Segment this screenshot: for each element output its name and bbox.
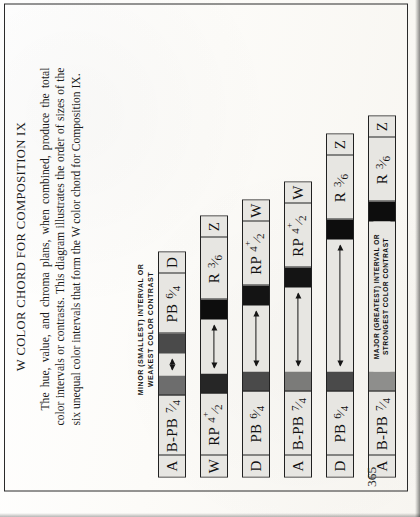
bar-start-notation: PB 6/4 — [243, 391, 269, 455]
bar-start-swatch — [327, 371, 353, 391]
interval-bar: AB-PB 7/4RP 4+/2W — [284, 181, 312, 477]
minor-annotation-line-1: MINOR (SMALLEST) INTERVAL OR — [136, 249, 146, 409]
page-title: W COLOR CHORD FOR COMPOSITION IX — [14, 21, 29, 471]
bar-end-letter: Z — [369, 116, 395, 137]
interval-bar: DPB 6/4RP 4+/2W — [242, 199, 270, 477]
double-arrow-icon — [171, 359, 172, 369]
bar-start-swatch — [369, 371, 395, 391]
bar-start-letter: W — [201, 455, 227, 476]
major-interval-annotation: MAJOR (GREATEST) INTERVAL ORSTRONGEST CO… — [373, 221, 390, 371]
bar-end-letter: W — [285, 182, 311, 203]
bar-end-letter: W — [243, 200, 269, 221]
bar-start-letter-text: A — [291, 460, 306, 471]
bar-end-notation: R 3/6 — [201, 237, 227, 299]
bar-start-notation: PB 6/4 — [327, 391, 353, 455]
bar-start-letter: A — [159, 455, 185, 476]
bar-start-letter-text: D — [249, 460, 264, 471]
bar-end-letter: Z — [327, 134, 353, 155]
bar-end-notation: PB 6/4 — [159, 273, 185, 333]
interval-gap — [159, 353, 185, 375]
minor-interval-annotation: MINOR (SMALLEST) INTERVAL OR WEAKEST COL… — [136, 249, 155, 409]
bar-start-notation: B-PB 7/4 — [159, 395, 185, 455]
intro-paragraph: The hue, value, and chroma plans, when c… — [38, 67, 84, 425]
bar-start-letter-text: D — [333, 460, 348, 471]
bar-start-swatch — [201, 373, 227, 393]
scanned-page: W COLOR CHORD FOR COMPOSITION IX The hue… — [0, 0, 420, 517]
double-arrow-icon — [213, 325, 214, 367]
page-folio: 365 — [364, 467, 380, 487]
bar-end-letter: Z — [201, 216, 227, 237]
bar-start-notation: B-PB 7/4 — [369, 391, 395, 455]
bar-end-swatch — [285, 267, 311, 287]
interval-bar: WRP 4+/2R 3/6Z — [200, 215, 228, 477]
bar-start-letter: D — [243, 455, 269, 476]
double-arrow-icon — [297, 293, 298, 365]
bar-start-swatch — [285, 371, 311, 391]
plate-content: W COLOR CHORD FOR COMPOSITION IX The hue… — [0, 0, 420, 517]
bar-start-notation: RP 4+/2 — [201, 393, 227, 455]
bar-end-swatch — [243, 285, 269, 305]
interval-gap — [327, 239, 353, 371]
bar-end-swatch — [159, 333, 185, 353]
major-annotation-line-1: MAJOR (GREATEST) INTERVAL OR — [373, 223, 382, 369]
bar-end-letter: D — [159, 252, 185, 273]
major-annotation-line-2: STRONGEST COLOR CONTRAST — [382, 223, 391, 369]
interval-bar: AB-PB 7/4PB 6/4D — [158, 251, 186, 477]
bar-start-notation: B-PB 7/4 — [285, 391, 311, 455]
bar-end-swatch — [369, 201, 395, 221]
bar-end-swatch — [327, 219, 353, 239]
bar-start-letter: D — [327, 455, 353, 476]
interval-gap — [243, 305, 269, 371]
bar-start-swatch — [243, 371, 269, 391]
double-arrow-icon — [255, 311, 256, 365]
bar-start-letter-text: W — [207, 458, 222, 472]
bar-end-swatch — [201, 299, 227, 319]
bar-end-notation: RP 4+/2 — [243, 221, 269, 285]
bar-end-notation: R 3/6 — [369, 137, 395, 201]
minor-annotation-line-2: WEAKEST COLOR CONTRAST — [146, 249, 156, 409]
bar-start-swatch — [159, 375, 185, 395]
interval-gap — [201, 319, 227, 373]
interval-bar: AB-PB 7/4MAJOR (GREATEST) INTERVAL ORSTR… — [368, 115, 396, 477]
interval-gap — [285, 287, 311, 371]
text-block: W COLOR CHORD FOR COMPOSITION IX The hue… — [14, 21, 84, 471]
bar-start-letter: A — [285, 455, 311, 476]
double-arrow-icon — [339, 245, 340, 365]
bar-start-letter-text: A — [165, 460, 180, 471]
bar-end-notation: R 3/6 — [327, 155, 353, 219]
interval-bar: DPB 6/4R 3/6Z — [326, 133, 354, 477]
interval-gap: MAJOR (GREATEST) INTERVAL ORSTRONGEST CO… — [369, 221, 395, 371]
bar-end-notation: RP 4+/2 — [285, 203, 311, 267]
